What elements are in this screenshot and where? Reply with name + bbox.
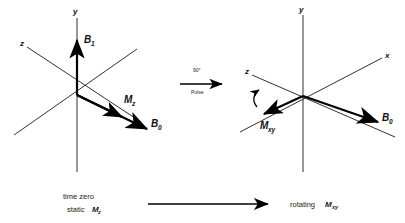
- right-vector-Mxy: [264, 96, 303, 114]
- caption-static-mz: static M z: [67, 205, 101, 215]
- svg-text:rotating: rotating: [290, 200, 315, 209]
- svg-text:1: 1: [91, 40, 95, 47]
- right-axis-label-z: z: [244, 67, 249, 76]
- left-axis-x: [14, 49, 137, 135]
- left-label-B0: B 0: [151, 118, 162, 131]
- right-axis-label-y: y: [298, 5, 304, 14]
- left-vector-Mz: [77, 95, 122, 117]
- right-caption: rotating M xy: [290, 200, 339, 210]
- left-label-B1: B 1: [84, 34, 95, 47]
- svg-text:static: static: [67, 205, 85, 214]
- svg-text:0: 0: [158, 124, 162, 131]
- rotation-arrow-icon: [254, 90, 259, 107]
- right-axis-label-x: x: [384, 51, 390, 60]
- svg-text:z: z: [97, 209, 101, 215]
- svg-text:M: M: [325, 200, 332, 209]
- pulse-transition: 90° Pulse: [180, 67, 222, 95]
- svg-text:z: z: [131, 100, 136, 107]
- right-label-B0: B 0: [382, 112, 393, 125]
- svg-text:0: 0: [389, 118, 393, 125]
- left-axis-label-y: y: [72, 7, 78, 16]
- right-diagram: y z x M xy B 0: [240, 5, 395, 172]
- nmr-vector-figure: y z B 1 M z B 0 90° Pulse: [0, 0, 405, 223]
- pulse-label-top: 90°: [193, 67, 201, 73]
- right-vector-B0: [303, 96, 378, 122]
- left-label-Mz: M z: [124, 94, 136, 107]
- caption-time-zero: time zero: [63, 192, 94, 201]
- left-caption: time zero static M z: [63, 192, 101, 215]
- left-axis-label-z: z: [19, 39, 24, 48]
- right-label-Mxy: M xy: [260, 120, 276, 134]
- pulse-label-bottom: Pulse: [191, 89, 204, 95]
- svg-text:xy: xy: [331, 204, 339, 210]
- svg-text:xy: xy: [267, 126, 276, 134]
- left-diagram: y z B 1 M z B 0: [14, 7, 162, 172]
